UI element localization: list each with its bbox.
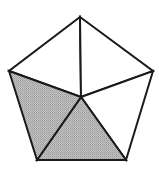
pentagon-diagram xyxy=(0,0,159,172)
